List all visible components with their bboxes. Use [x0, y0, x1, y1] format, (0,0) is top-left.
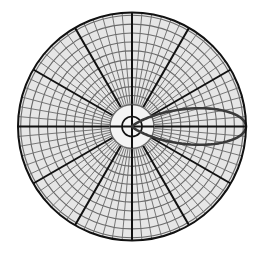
polar-pattern-diagram — [0, 0, 259, 256]
polar-grid — [0, 0, 259, 256]
